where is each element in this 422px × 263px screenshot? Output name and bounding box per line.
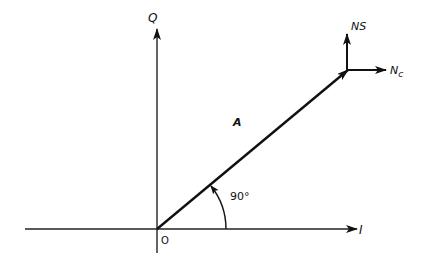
vector-a: A	[157, 70, 348, 229]
ns-component: NS	[347, 20, 366, 70]
q-axis-label: Q	[148, 11, 157, 25]
vector-a-label: A	[232, 116, 242, 129]
nc-label: Nc	[390, 64, 403, 79]
origin-label: O	[161, 235, 169, 246]
nc-component: Nc	[347, 64, 403, 79]
nc-label-sub: c	[398, 69, 403, 79]
angle-arc: 90°	[211, 186, 250, 229]
i-axis-label: I	[359, 223, 363, 237]
i-axis: I	[25, 223, 363, 237]
angle-label: 90°	[230, 190, 250, 203]
q-axis: Q	[148, 11, 157, 253]
phasor-diagram: I Q O A 90° NS Nc	[0, 0, 422, 263]
ns-label: NS	[351, 20, 366, 33]
nc-label-main: N	[390, 64, 398, 77]
